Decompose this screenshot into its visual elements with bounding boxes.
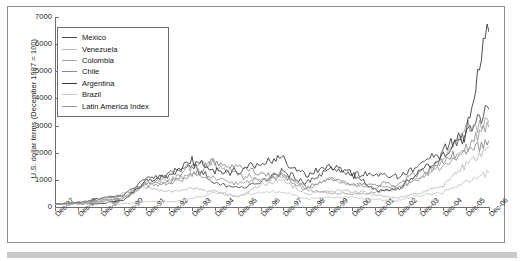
legend-item-label: Chile xyxy=(82,67,99,76)
legend-item[interactable]: Brazil xyxy=(62,89,163,100)
y-tick-label: 4000 xyxy=(12,94,52,102)
y-tick-label: 6000 xyxy=(12,40,52,48)
chart-figure: U.S. dollar terms (December 1987 = 100) … xyxy=(0,0,524,261)
legend-item[interactable]: Colombia xyxy=(62,55,163,66)
legend-line-swatch-icon xyxy=(62,49,77,50)
legend-item[interactable]: Mexico xyxy=(62,32,163,43)
legend-item-label: Latin America Index xyxy=(82,102,149,111)
y-tick-label: 2000 xyxy=(12,149,52,157)
y-tick-label: 5000 xyxy=(12,67,52,75)
legend-line-swatch-icon xyxy=(62,71,77,72)
bottom-rule-divider xyxy=(7,252,517,258)
y-tick-label: 3000 xyxy=(12,122,52,130)
legend-line-swatch-icon xyxy=(62,37,77,38)
legend-line-swatch-icon xyxy=(62,106,77,107)
y-tick-label: 7000 xyxy=(12,13,52,21)
legend-line-swatch-icon xyxy=(62,94,77,95)
legend-item-label: Brazil xyxy=(82,90,101,99)
legend-item[interactable]: Argentina xyxy=(62,78,163,89)
legend-item[interactable]: Latin America Index xyxy=(62,100,163,111)
legend-item-label: Venezuela xyxy=(82,45,117,54)
legend-item-label: Argentina xyxy=(82,79,115,88)
legend-item-label: Mexico xyxy=(82,33,106,42)
legend-item[interactable]: Venezuela xyxy=(62,43,163,54)
legend-item[interactable]: Chile xyxy=(62,66,163,77)
legend: MexicoVenezuelaColombiaChileArgentinaBra… xyxy=(57,27,169,117)
y-tick-label: 1000 xyxy=(12,176,52,184)
legend-line-swatch-icon xyxy=(62,60,77,61)
legend-item-label: Colombia xyxy=(82,56,114,65)
series-line xyxy=(55,106,489,205)
legend-line-swatch-icon xyxy=(62,83,77,84)
y-tick-label: 0 xyxy=(12,203,52,211)
